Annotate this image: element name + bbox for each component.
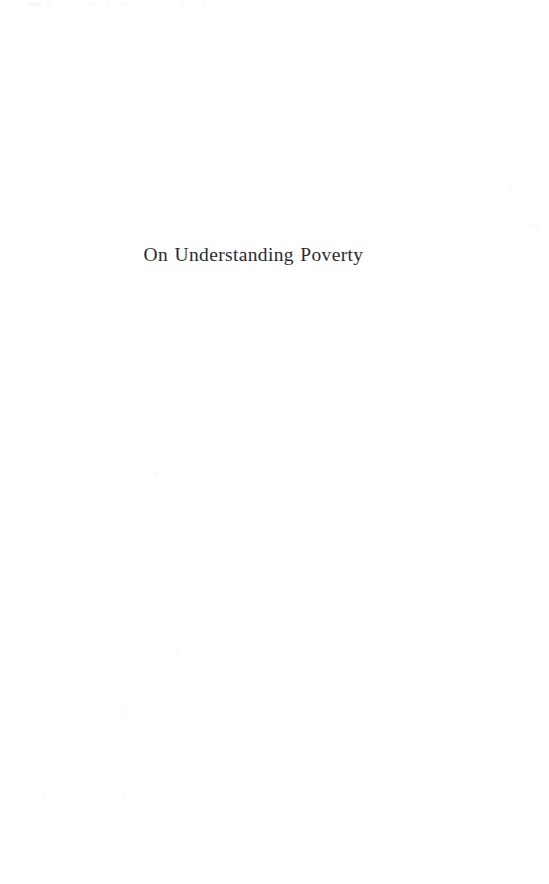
scan-speck: [120, 2, 129, 7]
scan-speck: [90, 2, 96, 7]
scan-speck: [121, 794, 125, 801]
scan-speck: [46, 3, 53, 7]
scan-speck: [106, 3, 111, 7]
scan-speck: [28, 2, 41, 7]
halftitle-block: On Understanding Poverty: [0, 243, 549, 266]
scan-smudge-row: [28, 2, 218, 11]
scan-speck: [536, 228, 540, 232]
scan-speck: [175, 650, 179, 655]
scan-speck: [180, 3, 184, 7]
scan-speck: [529, 223, 534, 227]
scan-speck: [508, 188, 512, 194]
scan-speck: [202, 2, 206, 8]
scan-speck: [123, 709, 127, 716]
scan-speck: [158, 3, 162, 7]
scan-speck: [154, 471, 159, 476]
scanned-page: On Understanding Poverty: [0, 0, 549, 884]
scan-speck: [43, 795, 47, 802]
page-title: On Understanding Poverty: [144, 243, 364, 266]
